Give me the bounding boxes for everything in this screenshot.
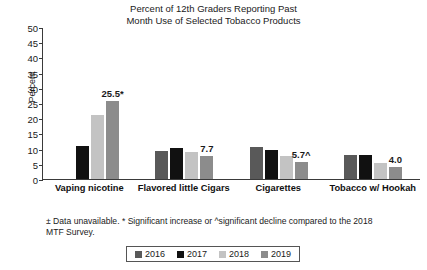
x-axis-category-labels: Vaping nicotineFlavored little CigarsCig…	[42, 183, 420, 193]
legend-item-2017[interactable]: 2017	[177, 249, 207, 259]
legend-item-2016[interactable]: 2016	[135, 249, 165, 259]
y-tick-45: 45	[27, 39, 38, 48]
x-category-flavored-little-cigars: Flavored little Cigars	[137, 183, 232, 193]
legend-label: 2016	[145, 249, 165, 259]
bar-value-label: 4.0	[389, 154, 402, 165]
y-tick-40: 40	[27, 54, 38, 63]
chart-title-line-2: Month Use of Selected Tobacco Products	[0, 15, 427, 27]
x-category-cigarettes: Cigarettes	[231, 183, 326, 193]
page-title: Percent of 12th Graders Reporting Past M…	[0, 0, 427, 27]
bar-2017-vaping-nicotine[interactable]	[76, 146, 89, 179]
bar-2017-flavored-little-cigars[interactable]	[170, 148, 183, 179]
legend-label: 2017	[187, 249, 207, 259]
bar-groups: 25.5*7.75.7^4.0	[43, 28, 420, 179]
legend-item-2019[interactable]: 2019	[261, 249, 291, 259]
y-tick-5: 5	[33, 160, 38, 169]
bar-2019-cigarettes[interactable]: 5.7^	[295, 162, 308, 179]
legend-swatch-icon-2018	[219, 251, 226, 258]
bar-2019-vaping-nicotine[interactable]: 25.5*	[106, 101, 119, 179]
bar-2018-flavored-little-cigars[interactable]	[185, 152, 198, 179]
y-tick-10: 10	[27, 145, 38, 154]
bar-2017-tobacco-w-hookah[interactable]	[359, 155, 372, 179]
legend-swatch-icon-2016	[135, 251, 142, 258]
bar-2018-vaping-nicotine[interactable]	[91, 115, 104, 179]
y-tick-20: 20	[27, 115, 38, 124]
bar-value-label: 5.7^	[292, 149, 311, 160]
bar-group-cigarettes: 5.7^	[232, 28, 326, 179]
tickmark-0	[39, 180, 43, 181]
y-tick-0: 0	[33, 176, 38, 185]
x-category-vaping-nicotine: Vaping nicotine	[42, 183, 137, 193]
bar-2017-cigarettes[interactable]	[265, 150, 278, 179]
legend-label: 2018	[229, 249, 249, 259]
y-axis-tick-labels: 50454035302520151050	[18, 28, 40, 180]
bar-2019-tobacco-w-hookah[interactable]: 4.0	[389, 167, 402, 179]
y-tick-35: 35	[27, 69, 38, 78]
chart-footnote: ± Data unavailable. * Significant increa…	[46, 216, 386, 238]
bar-value-label: 25.5*	[102, 88, 124, 99]
legend-swatch-icon-2017	[177, 251, 184, 258]
footnote-line-1: ± Data unavailable. * Significant increa…	[46, 216, 327, 226]
bar-2016-cigarettes[interactable]	[250, 147, 263, 179]
bar-value-label: 7.7	[200, 143, 213, 154]
bar-group-vaping-nicotine: 25.5*	[43, 28, 137, 179]
y-tick-25: 25	[27, 100, 38, 109]
bar-group-flavored-little-cigars: 7.7	[137, 28, 231, 179]
legend-swatch-icon-2019	[261, 251, 268, 258]
bar-2018-tobacco-w-hookah[interactable]	[374, 163, 387, 179]
chart-plot-wrapper: Percent 50454035302520151050 25.5*7.75.7…	[0, 28, 427, 198]
bar-2016-tobacco-w-hookah[interactable]	[344, 155, 357, 179]
y-tick-15: 15	[27, 130, 38, 139]
x-category-tobacco-w-hookah: Tobacco w/ Hookah	[326, 183, 421, 193]
bar-2016-flavored-little-cigars[interactable]	[155, 151, 168, 179]
legend-label: 2019	[271, 249, 291, 259]
y-tick-50: 50	[27, 24, 38, 33]
chart-legend: 2016201720182019	[126, 246, 300, 262]
bar-2018-cigarettes[interactable]	[280, 156, 293, 179]
bar-group-tobacco-w-hookah: 4.0	[326, 28, 420, 179]
legend-item-2018[interactable]: 2018	[219, 249, 249, 259]
y-tick-30: 30	[27, 84, 38, 93]
plot-area: 25.5*7.75.7^4.0	[42, 28, 420, 180]
bar-2019-flavored-little-cigars[interactable]: 7.7	[200, 156, 213, 179]
chart-title-line-1: Percent of 12th Graders Reporting Past	[0, 3, 427, 15]
